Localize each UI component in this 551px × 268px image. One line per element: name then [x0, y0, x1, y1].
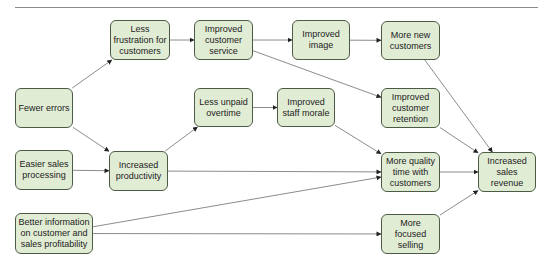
edge-improved-retention-to-increased-revenue: [440, 128, 478, 153]
node-label: Increased sales revenue: [481, 156, 533, 189]
node-label: Increased productivity: [112, 160, 165, 182]
node-label: More new customers: [384, 30, 437, 52]
node-improved-service: Improved customer service: [194, 20, 253, 60]
node-label: Less frustration for customers: [113, 24, 167, 57]
node-improved-retention: Improved customer retention: [381, 88, 440, 128]
node-label: Less unpaid overtime: [197, 97, 250, 119]
node-more-quality-time: More quality time with customers: [381, 152, 440, 192]
edge-increased-productivity-to-more-quality-time: [168, 171, 381, 172]
node-label: Easier sales processing: [18, 159, 70, 181]
node-increased-revenue: Increased sales revenue: [478, 152, 536, 192]
edge-fewer-errors-to-increased-productivity: [73, 127, 109, 151]
node-more-new-customers: More new customers: [381, 21, 440, 60]
node-label: Improved customer retention: [384, 92, 437, 125]
node-label: Improved customer service: [197, 24, 250, 57]
node-more-focused-selling: More focused selling: [381, 214, 440, 254]
edge-fewer-errors-to-less-frustration: [72, 60, 112, 88]
edge-more-focused-selling-to-increased-revenue: [440, 191, 478, 215]
node-less-unpaid-overtime: Less unpaid overtime: [194, 88, 253, 127]
edge-improved-staff-morale-to-more-quality-time: [335, 125, 381, 153]
node-increased-productivity: Increased productivity: [109, 151, 168, 191]
node-label: Better information on customer and sales…: [18, 217, 90, 250]
node-label: Improved image: [295, 29, 347, 51]
edge-increased-productivity-to-less-unpaid-overtime: [165, 127, 197, 151]
node-improved-image: Improved image: [292, 20, 350, 60]
node-improved-staff-morale: Improved staff morale: [277, 88, 335, 127]
node-label: More focused selling: [384, 218, 437, 251]
node-fewer-errors: Fewer errors: [15, 88, 73, 128]
node-easier-sales: Easier sales processing: [15, 150, 73, 190]
node-better-information: Better information on customer and sales…: [15, 213, 93, 254]
node-label: More quality time with customers: [384, 156, 437, 189]
node-label: Fewer errors: [18, 103, 69, 114]
node-label: Improved staff morale: [280, 97, 332, 119]
node-less-frustration: Less frustration for customers: [110, 20, 170, 60]
